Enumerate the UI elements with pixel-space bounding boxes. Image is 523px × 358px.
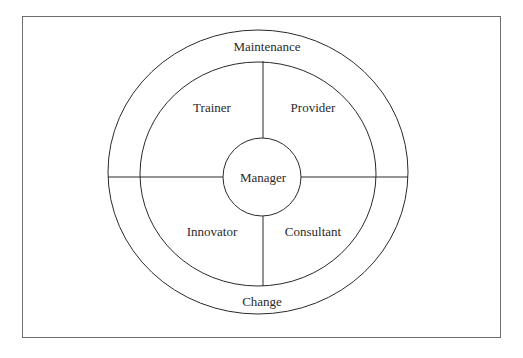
- quadrant-label-consultant: Consultant: [285, 224, 341, 240]
- outer-ring-top-label: Maintenance: [233, 39, 300, 55]
- quadrant-label-provider: Provider: [291, 100, 336, 116]
- outer-ring-bottom-label: Change: [242, 294, 282, 310]
- quadrant-label-innovator: Innovator: [187, 224, 238, 240]
- quadrant-label-trainer: Trainer: [193, 100, 231, 116]
- center-label-manager: Manager: [240, 170, 286, 186]
